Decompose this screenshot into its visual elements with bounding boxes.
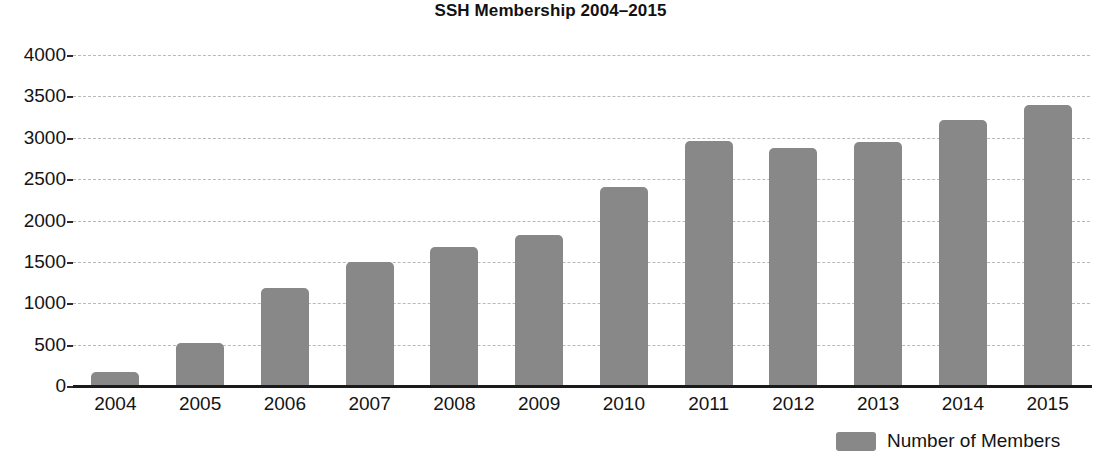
bar-2004[interactable] [91,372,139,386]
x-axis-tick-label-2010: 2010 [582,392,666,416]
x-axis-tick-label-2006: 2006 [243,392,327,416]
bar-2011[interactable] [685,141,733,386]
x-axis-tick-label-2007: 2007 [328,392,412,416]
x-axis-tick-label-2014: 2014 [921,392,1005,416]
x-axis-tick-label-2008: 2008 [412,392,496,416]
legend-label-number-of-members: Number of Members [887,430,1060,452]
gridline [73,96,1090,97]
y-axis-tick-label: 3000 [4,128,66,147]
y-axis-tick-label: 3500 [4,86,66,105]
x-axis-tick-label-2004: 2004 [73,392,157,416]
y-axis-tick-label: 2000 [4,211,66,230]
gridline [73,138,1090,139]
gridline [73,345,1090,346]
y-axis-tick-label: 500 [4,335,66,354]
bar-2015[interactable] [1024,105,1072,386]
chart-legend: Number of Members [836,428,1060,454]
bar-2013[interactable] [854,142,902,386]
x-axis-tick-label-2011: 2011 [667,392,751,416]
chart-title: SSH Membership 2004–2015 [0,0,1101,22]
y-axis-tick-label: 1000 [4,293,66,312]
x-axis: 2004200520062007200820092010201120122013… [73,392,1090,420]
bar-2010[interactable] [600,187,648,386]
bar-2007[interactable] [346,262,394,386]
bar-2014[interactable] [939,120,987,386]
bar-chart: SSH Membership 2004–2015 050010001500200… [0,0,1101,465]
gridline [73,221,1090,222]
bar-2006[interactable] [261,288,309,386]
gridline [73,179,1090,180]
bar-2009[interactable] [515,235,563,386]
y-axis-tick-label: 0 [4,376,66,395]
y-axis-tick-label: 1500 [4,252,66,271]
legend-swatch-number-of-members [836,432,876,451]
y-axis-tick-label: 2500 [4,169,66,188]
bar-2012[interactable] [769,148,817,386]
gridline [73,55,1090,56]
bar-2005[interactable] [176,343,224,386]
y-axis: 05001000150020002500300035004000 [0,55,66,386]
x-axis-tick-label-2009: 2009 [497,392,581,416]
gridline [73,262,1090,263]
x-axis-tick-label-2005: 2005 [158,392,242,416]
x-axis-tick-label-2012: 2012 [751,392,835,416]
gridline [73,303,1090,304]
y-axis-tick-label: 4000 [4,45,66,64]
bar-2008[interactable] [430,247,478,386]
x-axis-tick-label-2015: 2015 [1006,392,1090,416]
x-axis-tick-label-2013: 2013 [836,392,920,416]
x-axis-line [73,385,1092,388]
plot-area [73,55,1090,386]
